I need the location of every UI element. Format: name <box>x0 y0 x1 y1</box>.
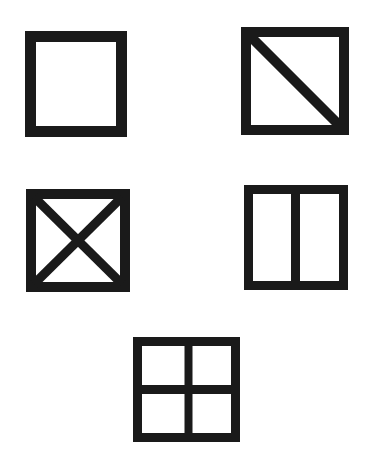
diagram-canvas <box>0 0 367 470</box>
background <box>0 0 367 470</box>
